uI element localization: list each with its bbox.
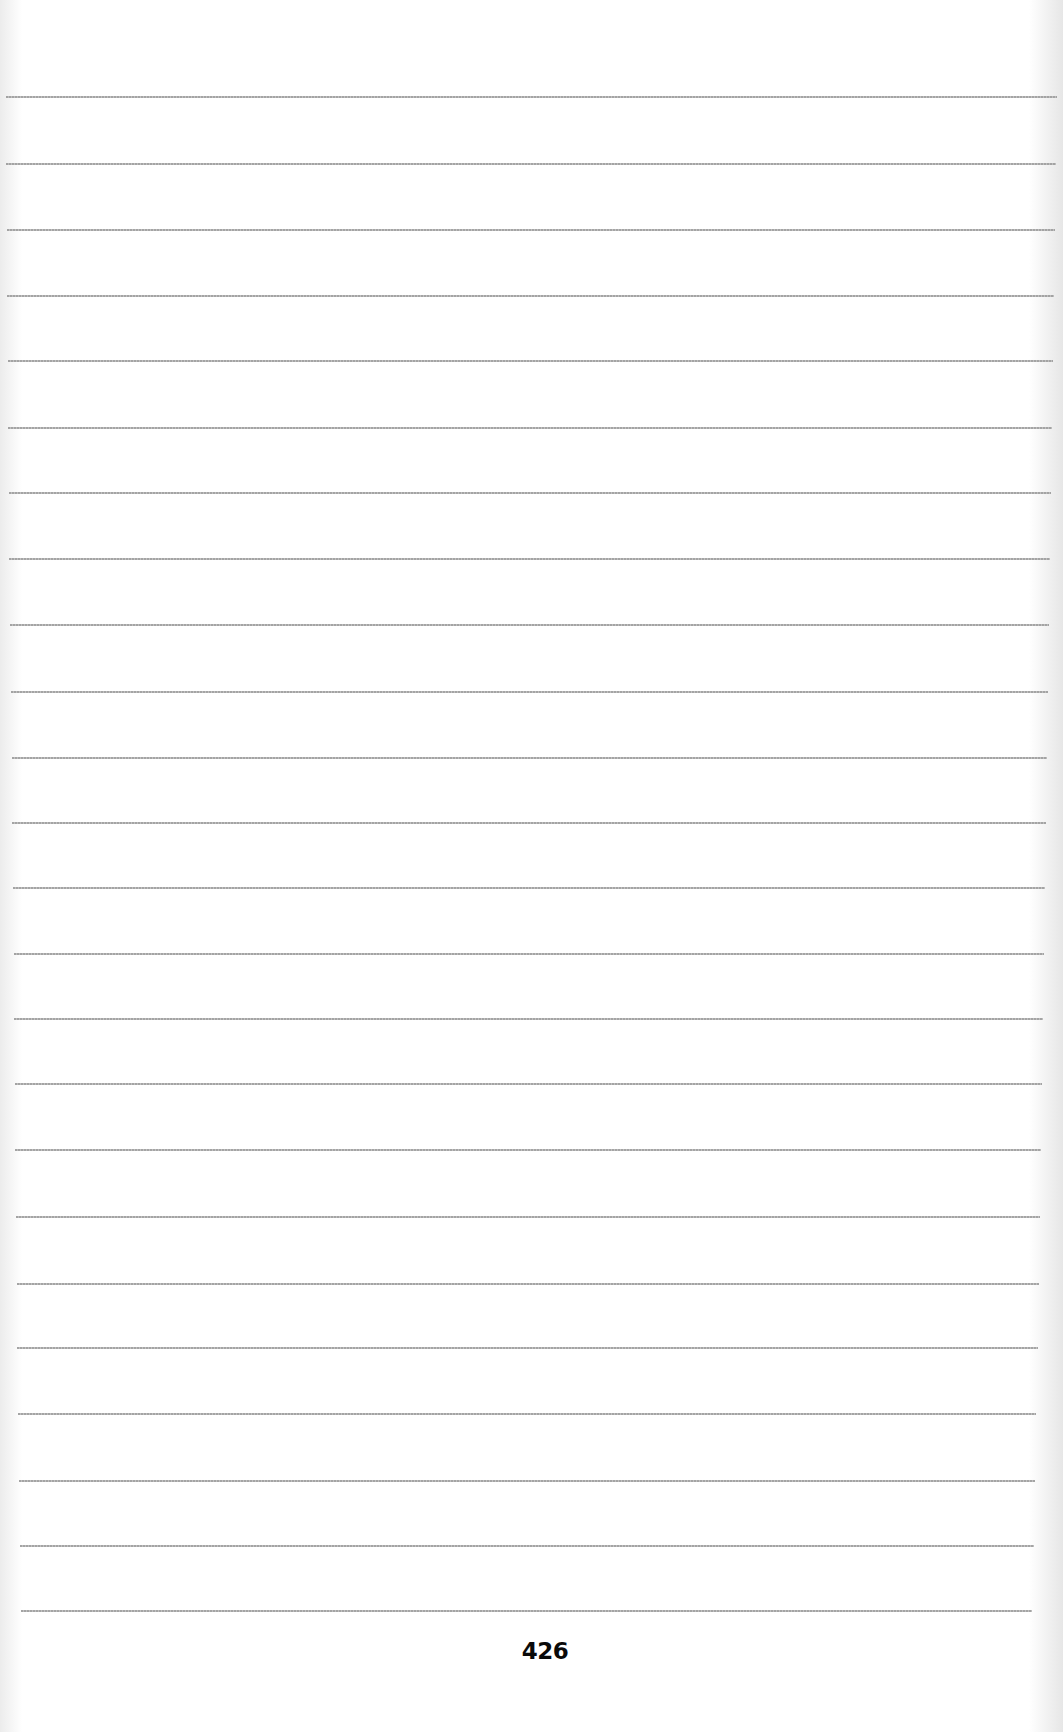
ruled-line	[12, 822, 1046, 824]
ruled-line	[19, 1480, 1035, 1482]
ruled-line	[8, 427, 1052, 429]
ruled-line	[17, 1347, 1038, 1349]
ruled-line	[18, 1413, 1036, 1415]
ruled-line	[8, 360, 1053, 362]
ruled-line	[13, 887, 1045, 889]
ruled-line	[11, 691, 1048, 693]
ruled-line	[15, 1149, 1041, 1151]
lined-notebook-page: 426	[0, 0, 1063, 1732]
ruled-line	[21, 1610, 1032, 1612]
ruled-line	[17, 1283, 1039, 1285]
ruled-line	[20, 1545, 1034, 1547]
page-number: 426	[0, 1638, 1063, 1664]
ruled-line	[15, 1083, 1042, 1085]
ruled-line	[9, 492, 1051, 494]
ruled-line	[9, 558, 1050, 560]
page-left-edge-shadow	[0, 0, 22, 1732]
ruled-line	[10, 624, 1049, 626]
ruled-line	[14, 1018, 1043, 1020]
page-right-edge-shadow	[1029, 0, 1063, 1732]
ruled-line	[6, 96, 1057, 98]
ruled-line	[7, 295, 1054, 297]
ruled-line	[7, 229, 1055, 231]
ruled-line	[16, 1216, 1040, 1218]
ruled-line	[12, 757, 1047, 759]
ruled-line	[14, 953, 1044, 955]
ruled-line	[6, 163, 1056, 165]
